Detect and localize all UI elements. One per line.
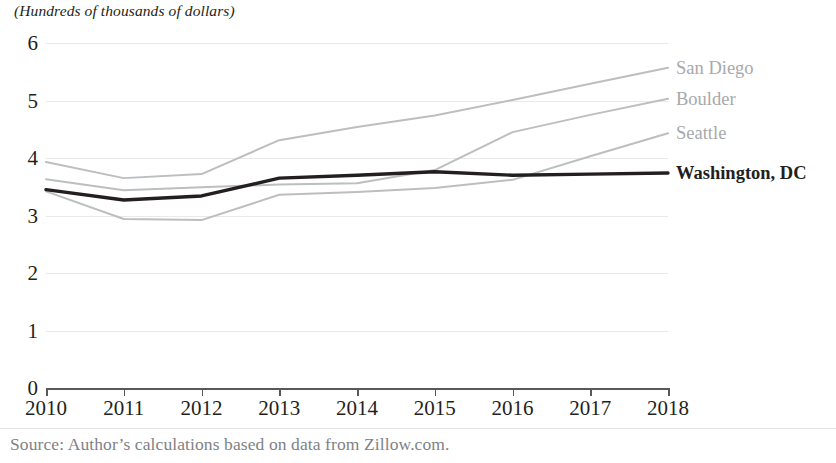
- x-axis-line: [46, 388, 668, 390]
- x-tick-label-2017: 2017: [569, 398, 611, 419]
- legend-item-boulder[interactable]: Boulder: [676, 89, 736, 108]
- legend-item-seattle[interactable]: Seattle: [676, 124, 726, 143]
- legend-label-seattle: Seattle: [676, 123, 726, 143]
- series-lines: [46, 43, 668, 388]
- x-tick-label-2012: 2012: [181, 398, 223, 419]
- series-line-washington-dc: [46, 172, 668, 200]
- y-tick-label-4: 4: [4, 148, 38, 169]
- chart-legend: San DiegoBoulderSeattleWashington, DC: [676, 43, 836, 203]
- x-tick-label-2015: 2015: [414, 398, 456, 419]
- legend-item-washington-dc[interactable]: Washington, DC: [676, 163, 807, 182]
- x-tick-label-2018: 2018: [647, 398, 689, 419]
- x-tick-label-2016: 2016: [492, 398, 534, 419]
- chart-figure: (Hundreds of thousands of dollars) 01234…: [0, 0, 836, 463]
- source-note: Source: Author’s calculations based on d…: [10, 434, 450, 455]
- x-tick-label-2010: 2010: [25, 398, 67, 419]
- y-tick-label-0: 0: [4, 378, 38, 399]
- legend-label-san-diego: San Diego: [676, 57, 754, 77]
- legend-item-san-diego[interactable]: San Diego: [676, 58, 754, 77]
- x-tick-label-2013: 2013: [258, 398, 300, 419]
- y-tick-label-1: 1: [4, 320, 38, 341]
- x-tick-2018: [668, 388, 670, 396]
- chart-subtitle: (Hundreds of thousands of dollars): [14, 2, 235, 20]
- y-tick-label-2: 2: [4, 263, 38, 284]
- legend-label-washington-dc: Washington, DC: [676, 162, 807, 182]
- y-tick-label-5: 5: [4, 90, 38, 111]
- y-axis: 0123456: [0, 43, 38, 388]
- legend-label-boulder: Boulder: [676, 88, 736, 108]
- x-tick-label-2014: 2014: [336, 398, 378, 419]
- source-divider: [0, 428, 836, 429]
- x-tick-label-2011: 2011: [103, 398, 144, 419]
- y-tick-label-3: 3: [4, 205, 38, 226]
- y-tick-label-6: 6: [4, 33, 38, 54]
